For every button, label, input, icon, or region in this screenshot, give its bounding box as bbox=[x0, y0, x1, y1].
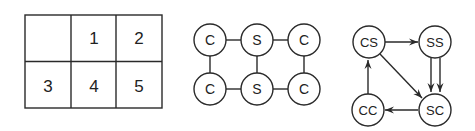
transition-graph: CS SS CC SC bbox=[352, 26, 451, 126]
lattice-graph: C S C C S C bbox=[194, 24, 320, 105]
lattice-node-label: C bbox=[299, 32, 309, 48]
diagram-canvas: 1 2 3 4 5 C S C C S C bbox=[0, 0, 475, 131]
lattice-node-label: S bbox=[252, 81, 261, 97]
grid-cell: 2 bbox=[134, 29, 143, 48]
grid-cells: 1 2 3 4 5 bbox=[43, 29, 143, 96]
grid-cell: 5 bbox=[134, 77, 143, 96]
node-label: CC bbox=[359, 103, 378, 118]
lattice-node-label: S bbox=[252, 32, 261, 48]
grid-cell: 3 bbox=[43, 77, 52, 96]
grid-cell: 4 bbox=[89, 77, 98, 96]
node-label: SC bbox=[426, 103, 444, 118]
node-label: SS bbox=[426, 35, 444, 50]
lattice-node-label: C bbox=[299, 81, 309, 97]
grid-cell: 1 bbox=[89, 29, 98, 48]
edge-cs-sc bbox=[380, 54, 422, 98]
lattice-node-label: C bbox=[205, 32, 215, 48]
lattice-node-label: C bbox=[205, 81, 215, 97]
node-label: CS bbox=[360, 35, 378, 50]
